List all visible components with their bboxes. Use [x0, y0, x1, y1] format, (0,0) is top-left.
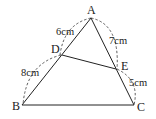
- label-point-d: D: [51, 42, 60, 56]
- label-length-ad: 6cm: [56, 26, 74, 37]
- label-point-a: A: [87, 3, 96, 17]
- label-length-db: 8cm: [21, 67, 39, 78]
- triangle-diagram: A B C D E 6cm 7cm 8cm 5cm: [0, 0, 156, 119]
- segment-de: [62, 55, 116, 69]
- label-point-e: E: [121, 59, 128, 73]
- label-length-ae: 7cm: [109, 35, 127, 46]
- label-point-b: B: [12, 99, 20, 113]
- label-length-ec: 5cm: [129, 77, 147, 88]
- label-point-c: C: [137, 100, 145, 114]
